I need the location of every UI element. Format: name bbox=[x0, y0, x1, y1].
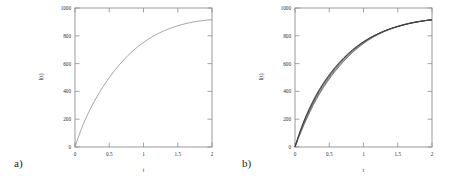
data-curve bbox=[295, 20, 432, 147]
xtick-label: 0 bbox=[74, 151, 77, 157]
panel-b-ticks bbox=[295, 8, 432, 147]
xtick-label: 2 bbox=[431, 151, 434, 157]
xtick-label: 0 bbox=[294, 151, 297, 157]
xtick-label: 1 bbox=[362, 151, 365, 157]
xtick-label: 1.5 bbox=[395, 151, 402, 157]
panel-a-ytick-labels: 0 200 400 600 800 1000 bbox=[61, 5, 72, 150]
xtick-label: 0.5 bbox=[106, 151, 113, 157]
data-curve bbox=[75, 20, 212, 147]
ytick-label: 200 bbox=[63, 116, 71, 122]
xtick-label: 1 bbox=[142, 151, 145, 157]
data-curve bbox=[295, 20, 432, 147]
panel-b-plot: 0 200 400 600 800 1000 0 0.5 1 1.5 2 t I… bbox=[228, 0, 456, 192]
panel-a-ticks bbox=[75, 8, 212, 147]
xtick-label: 2 bbox=[211, 151, 214, 157]
ytick-label: 800 bbox=[283, 33, 291, 39]
panel-a-yaxis-title: I(t) bbox=[38, 73, 45, 80]
ytick-label: 400 bbox=[283, 88, 291, 94]
ytick-label: 0 bbox=[288, 144, 291, 150]
panel-b-label: b) bbox=[242, 158, 251, 169]
ytick-label: 0 bbox=[68, 144, 71, 150]
ytick-label: 1000 bbox=[281, 5, 292, 11]
ytick-label: 400 bbox=[63, 88, 71, 94]
panel-b-yaxis-title: I(t) bbox=[258, 73, 265, 80]
data-curve bbox=[295, 20, 432, 147]
panel-b-curve-group bbox=[295, 20, 432, 147]
ytick-label: 600 bbox=[283, 61, 291, 67]
panel-b-xtick-labels: 0 0.5 1 1.5 2 bbox=[294, 151, 434, 157]
xtick-label: 1.5 bbox=[175, 151, 182, 157]
data-curve bbox=[295, 20, 432, 147]
panel-b-xaxis-title: t bbox=[363, 167, 365, 173]
panel-b-axes bbox=[295, 8, 432, 147]
ytick-label: 600 bbox=[63, 61, 71, 67]
data-curve bbox=[295, 20, 432, 147]
panel-a-xtick-labels: 0 0.5 1 1.5 2 bbox=[74, 151, 214, 157]
panel-a-curve-group bbox=[75, 20, 212, 147]
data-curve bbox=[295, 20, 432, 147]
panel-a-label: a) bbox=[14, 158, 23, 169]
ytick-label: 200 bbox=[283, 116, 291, 122]
panel-b: 0 200 400 600 800 1000 0 0.5 1 1.5 2 t I… bbox=[228, 0, 456, 192]
panel-a-axes bbox=[75, 8, 212, 147]
ytick-label: 1000 bbox=[61, 5, 72, 11]
ytick-label: 800 bbox=[63, 33, 71, 39]
panel-b-ytick-labels: 0 200 400 600 800 1000 bbox=[281, 5, 292, 150]
xtick-label: 0.5 bbox=[326, 151, 333, 157]
panel-a-xaxis-title: t bbox=[143, 167, 145, 173]
panel-a-plot: 0 200 400 600 800 1000 0 0.5 1 1.5 2 t I… bbox=[0, 0, 228, 192]
figure-two-panel-plot: 0 200 400 600 800 1000 0 0.5 1 1.5 2 t I… bbox=[0, 0, 456, 192]
panel-a: 0 200 400 600 800 1000 0 0.5 1 1.5 2 t I… bbox=[0, 0, 228, 192]
